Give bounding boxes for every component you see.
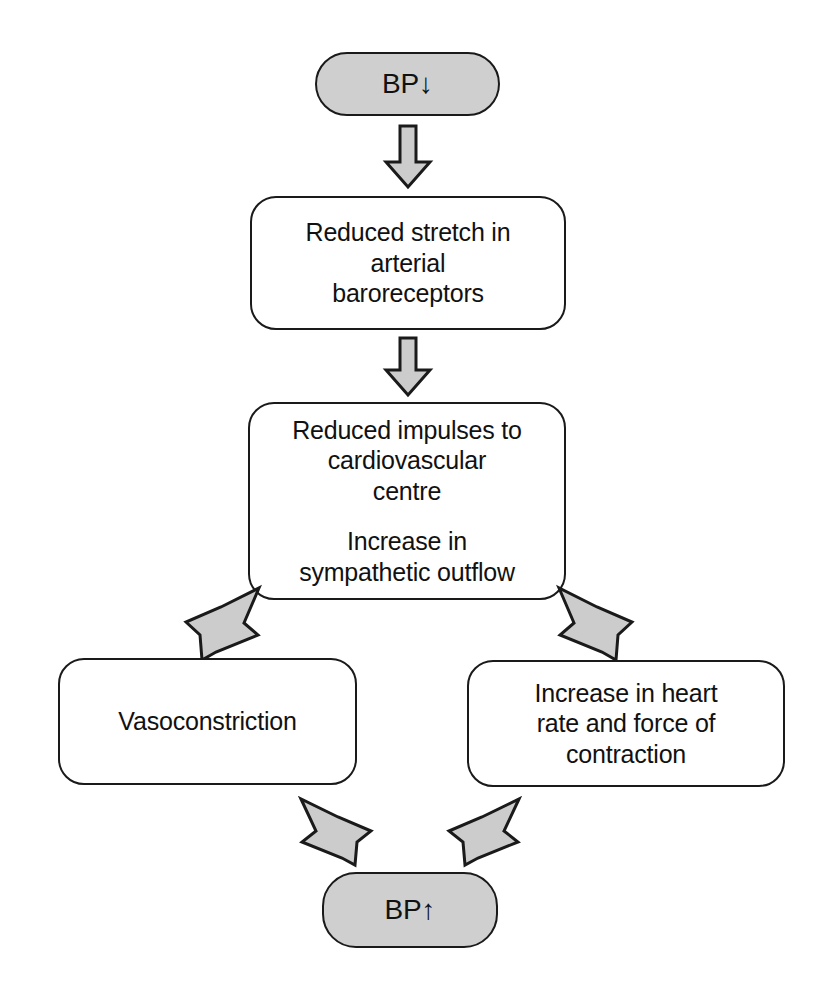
arrow-bp-down-to-reduced-stretch bbox=[382, 124, 434, 190]
node-reduced-stretch-line-3: baroreceptors bbox=[332, 278, 484, 309]
node-reduced-stretch-line-2: arterial bbox=[371, 248, 446, 279]
node-bp-up-label: BP↑ bbox=[385, 893, 436, 927]
arrow-increase-heart-rate-to-bp-up bbox=[418, 790, 528, 880]
node-increase-heart-rate: Increase in heart rate and force of cont… bbox=[467, 660, 785, 787]
node-reduced-impulses-paragraph-1: Reduced impulses to cardiovascular centr… bbox=[292, 415, 522, 507]
node-vasoconstriction: Vasoconstriction bbox=[58, 658, 357, 785]
node-reduced-impulses-line-2: cardiovascular bbox=[292, 445, 522, 476]
node-bp-down: BP↓ bbox=[315, 52, 500, 116]
arrow-down-left-shape bbox=[186, 588, 259, 660]
node-increase-sympathetic-line-1: Increase in bbox=[299, 526, 515, 557]
node-increase-heart-rate-line-3: contraction bbox=[566, 739, 686, 770]
node-bp-down-label: BP↓ bbox=[382, 67, 433, 101]
node-reduced-impulses-line-1: Reduced impulses to bbox=[292, 415, 522, 446]
node-bp-up: BP↑ bbox=[322, 872, 498, 948]
node-increase-heart-rate-line-2: rate and force of bbox=[537, 708, 716, 739]
node-reduced-impulses-paragraph-2: Increase in sympathetic outflow bbox=[299, 526, 515, 587]
node-increase-heart-rate-line-1: Increase in heart bbox=[535, 678, 718, 709]
arrow-down-right-shape bbox=[559, 588, 632, 660]
flowchart-canvas: BP↓ Reduced stretch in arterial barorece… bbox=[0, 0, 822, 988]
node-reduced-impulses: Reduced impulses to cardiovascular centr… bbox=[248, 402, 566, 600]
node-reduced-stretch-line-1: Reduced stretch in bbox=[306, 217, 511, 248]
arrow-vasoconstriction-to-bp-up bbox=[292, 790, 402, 880]
arrow-reduced-stretch-to-reduced-impulses bbox=[382, 336, 434, 398]
node-reduced-stretch: Reduced stretch in arterial baroreceptor… bbox=[250, 196, 566, 330]
arrow-down-right-shape bbox=[301, 799, 371, 865]
arrow-down-shape bbox=[386, 126, 430, 187]
arrow-down-left-shape bbox=[449, 799, 519, 865]
node-reduced-impulses-line-3: centre bbox=[292, 476, 522, 507]
arrow-down-shape bbox=[386, 338, 430, 395]
node-increase-sympathetic-line-2: sympathetic outflow bbox=[299, 557, 515, 588]
node-vasoconstriction-label: Vasoconstriction bbox=[118, 706, 296, 737]
